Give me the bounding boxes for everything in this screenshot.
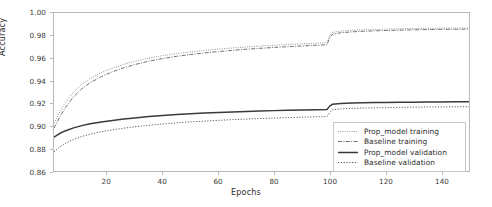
figure-canvas: 1.000.980.960.940.920.900.880.86 2040608…: [0, 0, 492, 207]
legend-line-sample: [337, 148, 359, 157]
y-tick-mark: [50, 81, 53, 82]
y-tick-label: 1.00: [14, 8, 46, 17]
legend-item[interactable]: Baseline training: [337, 137, 461, 148]
y-tick-mark: [50, 58, 53, 59]
x-tick-label: 100: [323, 177, 337, 186]
x-axis-label: Epochs: [0, 188, 492, 197]
series-line-1: [54, 29, 469, 128]
x-tick-label: 140: [435, 177, 449, 186]
series-line-0: [54, 28, 469, 123]
legend-item[interactable]: Baseline validation: [337, 158, 461, 169]
x-tick-mark: [106, 172, 107, 175]
y-tick-label: 0.96: [14, 53, 46, 62]
x-tick-mark: [218, 172, 219, 175]
legend-label: Baseline validation: [364, 158, 435, 167]
chart-legend: Prop_model trainingBaseline trainingProp…: [333, 122, 466, 172]
x-tick-label: 80: [269, 177, 278, 186]
x-tick-label: 120: [379, 177, 393, 186]
y-tick-mark: [50, 149, 53, 150]
legend-line-sample: [337, 127, 359, 136]
y-tick-mark: [50, 126, 53, 127]
x-tick-mark: [274, 172, 275, 175]
y-tick-label: 0.90: [14, 122, 46, 131]
y-tick-label: 0.94: [14, 76, 46, 85]
y-tick-mark: [50, 103, 53, 104]
x-tick-mark: [162, 172, 163, 175]
x-tick-mark: [386, 172, 387, 175]
legend-line-sample: [337, 158, 359, 167]
y-tick-mark: [50, 35, 53, 36]
legend-line-sample: [337, 137, 359, 146]
y-axis-label: Accuracy: [0, 18, 7, 56]
x-tick-mark: [442, 172, 443, 175]
y-tick-label: 0.88: [14, 145, 46, 154]
legend-label: Prop_model validation: [364, 148, 447, 157]
x-tick-label: 60: [213, 177, 222, 186]
y-tick-label: 0.92: [14, 99, 46, 108]
legend-label: Baseline training: [364, 137, 427, 146]
y-tick-mark: [50, 12, 53, 13]
y-tick-mark: [50, 172, 53, 173]
x-tick-label: 40: [157, 177, 166, 186]
legend-item[interactable]: Prop_model validation: [337, 147, 461, 158]
y-tick-label: 0.98: [14, 30, 46, 39]
legend-item[interactable]: Prop_model training: [337, 126, 461, 137]
y-tick-label: 0.86: [14, 168, 46, 177]
x-tick-label: 20: [101, 177, 110, 186]
legend-label: Prop_model training: [364, 127, 439, 136]
x-tick-mark: [330, 172, 331, 175]
